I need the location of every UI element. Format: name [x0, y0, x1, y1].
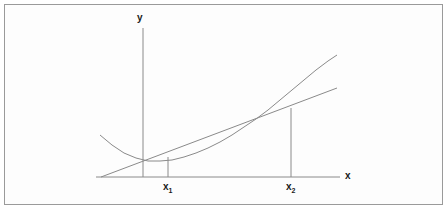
plot-canvas: [0, 0, 447, 209]
tick-label-x1-base: x: [163, 181, 169, 192]
tick-label-x2-base: x: [286, 181, 292, 192]
tick-label-x1-subscript: 1: [169, 187, 173, 194]
axes-group: [96, 28, 340, 177]
secant-line: [101, 88, 337, 177]
y-axis-label: y: [137, 13, 143, 23]
tick-label-x1: x1: [163, 182, 172, 192]
tick-label-x2-subscript: 2: [292, 187, 296, 194]
x-axis-label: x: [345, 171, 351, 181]
droplines-group: [168, 108, 291, 177]
figure-root: y x x1 x2: [0, 0, 447, 209]
data-series-group: [100, 55, 337, 177]
tick-label-x2: x2: [286, 182, 295, 192]
convex-curve: [100, 55, 337, 161]
